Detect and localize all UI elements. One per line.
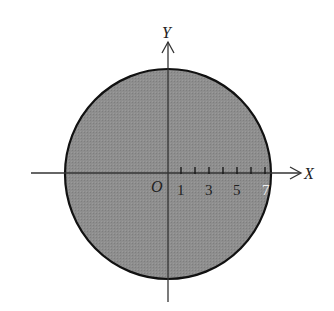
y-axis-label: Y bbox=[162, 24, 173, 41]
x-tick-label-5: 5 bbox=[233, 182, 241, 198]
origin-label: O bbox=[151, 178, 163, 195]
x-tick-label-3: 3 bbox=[205, 182, 213, 198]
x-tick-label-7: 7 bbox=[262, 182, 270, 198]
x-tick-label-1: 1 bbox=[177, 182, 185, 198]
diagram-canvas: Y X O 1 3 5 7 bbox=[0, 0, 334, 311]
x-axis-label: X bbox=[303, 165, 315, 182]
circle-diagram: Y X O 1 3 5 7 bbox=[0, 0, 334, 311]
